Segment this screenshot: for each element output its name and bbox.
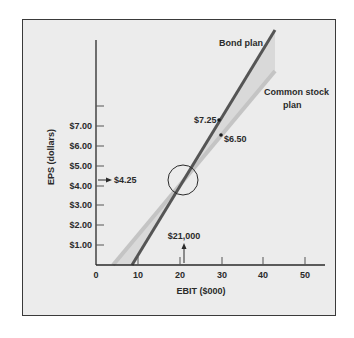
bond-plan-label: Bond plan (219, 38, 263, 48)
y-axis-title: EPS (dollars) (46, 129, 56, 185)
annotation-21000: $21,000 (168, 231, 201, 241)
common-stock-label-2: plan (283, 100, 302, 110)
eps-ebit-chart: $7.00 $6.00 $5.00 $4.00 $3.00 $2.00 $1.0… (0, 0, 354, 338)
arrow-425-head (106, 178, 112, 183)
annotation-725: $7.25 (194, 115, 217, 125)
x-tick-label: 0 (93, 270, 98, 280)
point-650 (219, 133, 223, 137)
x-tick-label: 50 (300, 270, 310, 280)
y-ticks (96, 106, 104, 245)
y-tick-label: $2.00 (69, 220, 92, 230)
annotation-650: $6.50 (224, 134, 247, 144)
x-tick-label: 20 (175, 270, 185, 280)
annotation-425: $4.25 (114, 175, 137, 185)
y-tick-label: $1.00 (69, 240, 92, 250)
bond-plan-line (132, 30, 275, 265)
y-tick-label: $5.00 (69, 161, 92, 171)
y-tick-label: $3.00 (69, 200, 92, 210)
y-tick-label: $6.00 (69, 141, 92, 151)
point-725 (217, 118, 221, 122)
x-axis-title: EBIT ($000) (176, 286, 225, 296)
x-tick-label: 10 (133, 270, 143, 280)
y-tick-label: $4.00 (69, 181, 92, 191)
common-stock-label: Common stock (264, 87, 330, 97)
x-tick-label: 30 (217, 270, 227, 280)
arrow-21000-head (182, 243, 187, 249)
y-tick-label: $7.00 (69, 121, 92, 131)
x-tick-label: 40 (258, 270, 268, 280)
x-ticks (138, 257, 305, 265)
